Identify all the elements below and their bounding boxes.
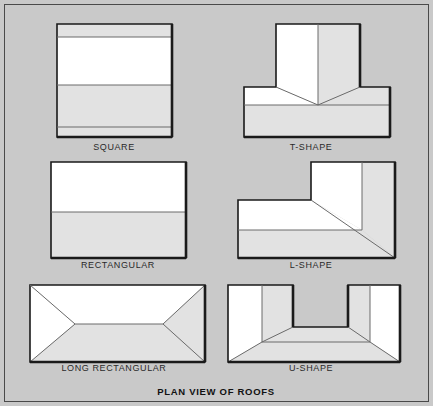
- roof-face-main-lower-slope: [244, 105, 390, 137]
- roof-face-upper-eave-band: [57, 24, 172, 37]
- roof-diagram-u-shape: U-SHAPE: [228, 285, 400, 373]
- roof-diagram-long-rectangular: LONG RECTANGULAR: [30, 285, 205, 373]
- roof-diagram-rectangular: RECTANGULAR: [51, 162, 186, 270]
- roof-diagram-square: SQUARE: [57, 24, 172, 152]
- roof-plan-figure: SQUARET-SHAPERECTANGULARL-SHAPELONG RECT…: [0, 0, 433, 406]
- roof-label-long-rectangular: LONG RECTANGULAR: [62, 363, 167, 373]
- roof-face-lower-slope: [51, 212, 186, 258]
- roof-face-upper-slope: [57, 37, 172, 85]
- roof-diagrams-canvas: SQUARET-SHAPERECTANGULARL-SHAPELONG RECT…: [0, 0, 433, 406]
- roof-label-l-shape: L-SHAPE: [290, 260, 333, 270]
- roof-face-lower-eave-band: [57, 127, 172, 137]
- roof-face-lower-slope: [57, 85, 172, 127]
- roof-label-square: SQUARE: [93, 142, 135, 152]
- diagram-layer: SQUARET-SHAPERECTANGULARL-SHAPELONG RECT…: [30, 24, 400, 373]
- roof-diagram-l-shape: L-SHAPE: [238, 162, 395, 270]
- roof-label-rectangular: RECTANGULAR: [81, 260, 155, 270]
- roof-label-u-shape: U-SHAPE: [289, 363, 333, 373]
- roof-diagram-t-shape: T-SHAPE: [244, 24, 390, 152]
- roof-label-t-shape: T-SHAPE: [290, 142, 333, 152]
- roof-face-upper-slope: [51, 162, 186, 212]
- figure-caption: PLAN VIEW OF ROOFS: [157, 386, 275, 397]
